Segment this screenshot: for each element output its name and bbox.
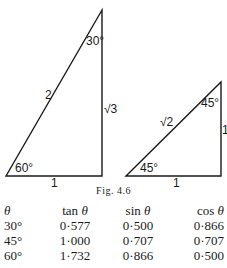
triangle-30-60-90: 30° 60° 2 √3 1 xyxy=(6,10,118,190)
cell-cos: 0·866 xyxy=(170,218,226,233)
cell-sin: 0·707 xyxy=(106,233,170,248)
header-cos: cos θ xyxy=(170,203,226,218)
figure-caption: Fig. 4.6 xyxy=(0,185,227,196)
cell-tan: 1·000 xyxy=(44,233,106,248)
cell-angle: 45° xyxy=(4,233,44,248)
hypotenuse-label: 2 xyxy=(45,88,52,102)
header-sin: sin θ xyxy=(106,203,170,218)
table-row: 45° 1·000 0·707 0·707 xyxy=(4,233,226,248)
cell-sin: 0·866 xyxy=(106,248,170,263)
cell-cos: 0·500 xyxy=(170,248,226,263)
side-label-1: 1 xyxy=(222,123,227,137)
table-row: 60° 1·732 0·866 0·500 xyxy=(4,248,226,263)
cell-tan: 1·732 xyxy=(44,248,106,263)
header-theta: θ xyxy=(4,203,44,218)
angle-label-45-bottom: 45° xyxy=(140,161,158,175)
cell-angle: 60° xyxy=(4,248,44,263)
header-tan: tan θ xyxy=(44,203,106,218)
hypotenuse-label: √2 xyxy=(160,115,174,129)
table-row: 30° 0·577 0·500 0·866 xyxy=(4,218,226,233)
side-label-sqrt3: √3 xyxy=(104,102,118,116)
trig-values-table: θ tan θ sin θ cos θ 30° 0·577 0·500 0·86… xyxy=(4,203,226,263)
table-header-row: θ tan θ sin θ cos θ xyxy=(4,203,226,218)
cell-tan: 0·577 xyxy=(44,218,106,233)
angle-label-30: 30° xyxy=(86,34,104,48)
figure-triangles: 30° 60° 2 √3 1 45° 45° √2 1 1 xyxy=(0,0,227,200)
cell-sin: 0·500 xyxy=(106,218,170,233)
cell-cos: 0·707 xyxy=(170,233,226,248)
angle-label-45-top: 45° xyxy=(201,96,219,110)
cell-angle: 30° xyxy=(4,218,44,233)
triangle-45-45-90: 45° 45° √2 1 1 xyxy=(126,82,227,190)
angle-label-60: 60° xyxy=(15,161,33,175)
